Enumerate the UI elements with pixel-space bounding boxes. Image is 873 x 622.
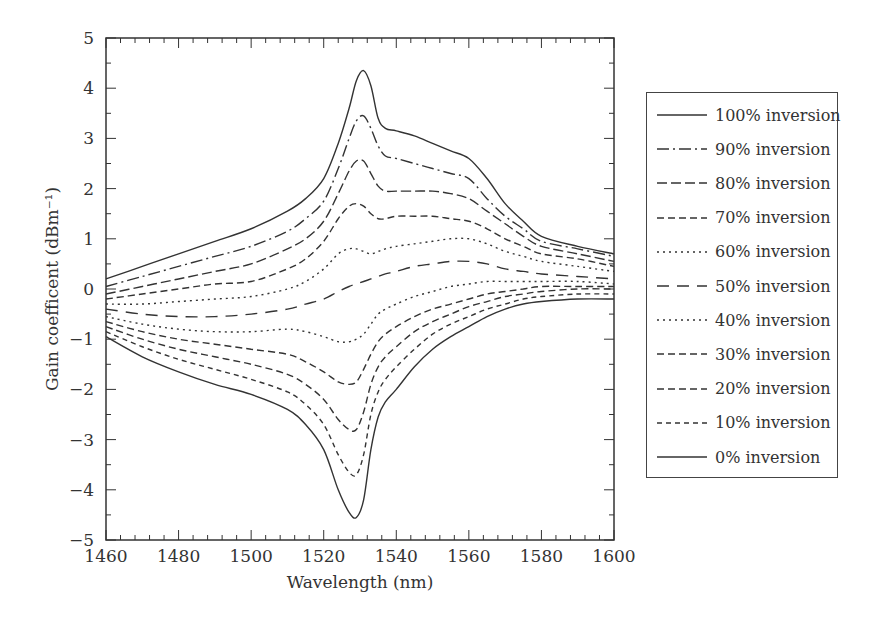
y-tick-label: 3: [83, 128, 94, 148]
legend-line-swatch-icon: [657, 281, 707, 291]
series-line-60pct-inversion: [106, 238, 614, 304]
x-tick-label: 1480: [157, 546, 200, 566]
x-tick-label: 1500: [230, 546, 273, 566]
legend-line-swatch-icon: [657, 452, 707, 462]
series-line-30pct-inversion: [106, 286, 614, 384]
y-tick-label: 1: [83, 229, 94, 249]
legend-label: 60% inversion: [715, 242, 831, 261]
x-tick-label: 1600: [592, 546, 635, 566]
x-tick-label: 1540: [375, 546, 418, 566]
y-tick-label: −4: [69, 480, 94, 500]
plot-area: [106, 71, 614, 519]
legend-item-40pct-inversion: 40% inversion: [657, 310, 831, 330]
series-line-50pct-inversion: [106, 261, 614, 317]
y-tick-label: −2: [69, 379, 94, 399]
legend-label: 100% inversion: [715, 106, 841, 125]
legend-line-swatch-icon: [657, 110, 707, 120]
legend-item-80pct-inversion: 80% inversion: [657, 173, 831, 193]
series-line-70pct-inversion: [106, 204, 614, 299]
axes: 14601480150015201540156015801600543210−1…: [69, 28, 636, 566]
series-line-40pct-inversion: [106, 281, 614, 342]
legend-item-60pct-inversion: 60% inversion: [657, 242, 831, 262]
legend-line-swatch-icon: [657, 213, 707, 223]
y-tick-label: −1: [69, 329, 94, 349]
legend-label: 70% inversion: [715, 208, 831, 227]
legend: 100% inversion90% inversion80% inversion…: [646, 92, 838, 478]
legend-item-90pct-inversion: 90% inversion: [657, 139, 831, 159]
legend-label: 80% inversion: [715, 174, 831, 193]
y-tick-label: 2: [83, 179, 94, 199]
x-tick-label: 1580: [520, 546, 563, 566]
legend-item-30pct-inversion: 30% inversion: [657, 344, 831, 364]
legend-line-swatch-icon: [657, 247, 707, 257]
plot-frame: [106, 38, 614, 540]
series-line-90pct-inversion: [106, 115, 614, 286]
series-line-10pct-inversion: [106, 294, 614, 476]
y-tick-label: 4: [83, 78, 94, 98]
legend-label: 90% inversion: [715, 140, 831, 159]
legend-item-20pct-inversion: 20% inversion: [657, 379, 831, 399]
series-line-0pct-inversion: [106, 299, 614, 518]
legend-item-10pct-inversion: 10% inversion: [657, 413, 831, 433]
x-tick-label: 1520: [302, 546, 345, 566]
legend-label: 30% inversion: [715, 345, 831, 364]
x-tick-label: 1560: [447, 546, 490, 566]
legend-label: 20% inversion: [715, 379, 831, 398]
legend-line-swatch-icon: [657, 178, 707, 188]
y-tick-label: 0: [83, 279, 94, 299]
legend-label: 50% inversion: [715, 277, 831, 296]
legend-line-swatch-icon: [657, 384, 707, 394]
legend-label: 40% inversion: [715, 311, 831, 330]
legend-item-70pct-inversion: 70% inversion: [657, 208, 831, 228]
legend-label: 10% inversion: [715, 413, 831, 432]
legend-item-100pct-inversion: 100% inversion: [657, 105, 841, 125]
y-axis-title: Gain coefficent (dBm⁻¹): [42, 187, 62, 391]
legend-label: 0% inversion: [715, 448, 820, 467]
legend-item-0pct-inversion: 0% inversion: [657, 447, 820, 467]
y-tick-label: −3: [69, 430, 94, 450]
legend-line-swatch-icon: [657, 418, 707, 428]
legend-item-50pct-inversion: 50% inversion: [657, 276, 831, 296]
y-tick-label: 5: [83, 28, 94, 48]
x-axis-title: Wavelength (nm): [287, 572, 434, 592]
legend-line-swatch-icon: [657, 349, 707, 359]
series-line-100pct-inversion: [106, 71, 614, 279]
legend-line-swatch-icon: [657, 144, 707, 154]
legend-line-swatch-icon: [657, 315, 707, 325]
y-tick-label: −5: [69, 530, 94, 550]
